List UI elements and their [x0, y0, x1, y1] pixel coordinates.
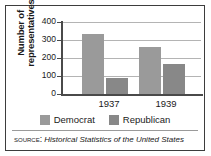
legend-swatch-republican — [109, 115, 119, 125]
source-divider — [12, 130, 198, 131]
y-tick-label-400: 400 — [30, 17, 56, 26]
source-label: Source: — [14, 134, 42, 144]
bar-1939-democrat — [139, 47, 161, 94]
legend-label-democrat: Democrat — [54, 115, 95, 125]
y-tick-label-0: 0 — [30, 89, 56, 98]
x-tick-label-1937: 1937 — [89, 98, 129, 109]
y-tick-mark-0 — [57, 94, 61, 95]
y-tick-mark-400 — [57, 22, 61, 23]
bar-1939-republican — [163, 64, 185, 94]
bar-chart: Number of representatives 400 300 200 10… — [6, 6, 204, 114]
legend: Democrat Republican — [6, 112, 204, 128]
legend-item-democrat: Democrat — [40, 115, 95, 125]
x-axis-line — [61, 94, 203, 96]
legend-label-republican: Republican — [123, 115, 171, 125]
x-tick-label-1939: 1939 — [146, 98, 186, 109]
plot-area — [63, 22, 201, 94]
source-title: Historical Statistics of the United Stat… — [44, 135, 184, 144]
y-tick-mark-100 — [57, 76, 61, 77]
gridline-400 — [63, 22, 201, 23]
bar-1937-republican — [106, 78, 128, 94]
y-axis-line — [61, 21, 63, 96]
y-tick-label-300: 300 — [30, 35, 56, 44]
legend-item-republican: Republican — [109, 115, 171, 125]
y-tick-mark-200 — [57, 58, 61, 59]
figure-frame: Number of representatives 400 300 200 10… — [5, 5, 205, 151]
bar-1937-democrat — [82, 34, 104, 94]
y-tick-label-100: 100 — [30, 71, 56, 80]
source-note: Source: Historical Statistics of the Uni… — [14, 134, 200, 144]
y-tick-mark-300 — [57, 40, 61, 41]
legend-swatch-democrat — [40, 115, 50, 125]
y-tick-label-200: 200 — [30, 53, 56, 62]
